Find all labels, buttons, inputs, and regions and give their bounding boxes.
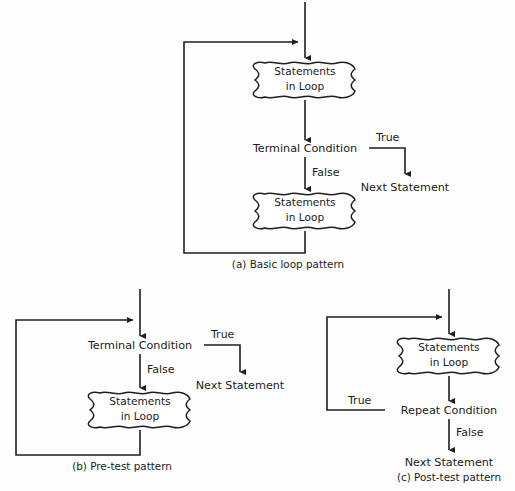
node-c-repeat-condition: Repeat Condition [401, 404, 497, 417]
diagram-a: Statements in Loop Terminal Condition Tr… [184, 2, 450, 270]
edge-label-b-true: True [210, 328, 235, 341]
node-a-statements-top-line1: Statements [274, 65, 335, 77]
caption-c: (c) Post-test pattern [397, 471, 501, 483]
node-c-next-statement: Next Statement [405, 456, 494, 469]
node-b-statements-line2: in Loop [121, 410, 160, 422]
node-a-statements-bottom-line2: in Loop [286, 211, 325, 223]
caption-b: (b) Pre-test pattern [72, 460, 172, 472]
edge-label-c-true: True [347, 394, 372, 407]
node-a-statements-top-line2: in Loop [286, 80, 325, 92]
edge-label-a-false: False [312, 166, 340, 179]
node-c-statements-line2: in Loop [430, 356, 469, 368]
edge-label-a-true: True [375, 131, 400, 144]
diagram-b: Terminal Condition True Next Statement F… [16, 289, 285, 472]
node-a-statements-in-loop-top: Statements in Loop [253, 62, 355, 98]
node-b-statements-in-loop: Statements in Loop [88, 392, 190, 428]
wire-b-true-branch [204, 345, 240, 372]
wire-a-true-branch [369, 148, 405, 174]
edge-label-b-false: False [147, 363, 175, 376]
node-c-statements-in-loop: Statements in Loop [397, 338, 499, 374]
flowchart-figure: Statements in Loop Terminal Condition Tr… [0, 0, 515, 491]
node-c-statements-line1: Statements [418, 341, 479, 353]
node-a-statements-in-loop-bottom: Statements in Loop [253, 193, 355, 229]
node-b-terminal-condition: Terminal Condition [87, 339, 192, 352]
diagram-c: True Statements in Loop Repeat Condition… [327, 289, 501, 483]
node-a-next-statement: Next Statement [361, 181, 450, 194]
node-a-terminal-condition: Terminal Condition [252, 142, 357, 155]
node-a-statements-bottom-line1: Statements [274, 196, 335, 208]
node-b-next-statement: Next Statement [196, 379, 285, 392]
flowchart-canvas: Statements in Loop Terminal Condition Tr… [0, 0, 515, 491]
node-b-statements-line1: Statements [109, 395, 170, 407]
caption-a: (a) Basic loop pattern [232, 258, 344, 270]
edge-label-c-false: False [456, 426, 484, 439]
